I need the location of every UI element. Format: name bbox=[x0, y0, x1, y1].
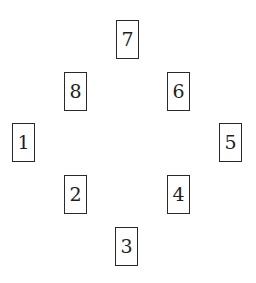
card-3: 3 bbox=[115, 227, 138, 266]
card-8: 8 bbox=[64, 72, 87, 111]
card-4: 4 bbox=[167, 175, 190, 214]
card-1: 1 bbox=[12, 123, 35, 162]
card-label: 3 bbox=[120, 237, 132, 256]
card-7: 7 bbox=[116, 20, 139, 59]
card-label: 2 bbox=[69, 185, 81, 204]
card-5: 5 bbox=[219, 123, 242, 162]
card-6: 6 bbox=[167, 72, 190, 111]
card-label: 4 bbox=[172, 185, 184, 204]
card-label: 1 bbox=[17, 133, 29, 152]
card-2: 2 bbox=[64, 175, 87, 214]
card-label: 7 bbox=[121, 30, 133, 49]
card-label: 5 bbox=[224, 133, 236, 152]
diagram-canvas: 1 2 3 4 5 6 7 8 bbox=[0, 0, 256, 283]
card-label: 6 bbox=[172, 82, 184, 101]
card-label: 8 bbox=[69, 82, 81, 101]
